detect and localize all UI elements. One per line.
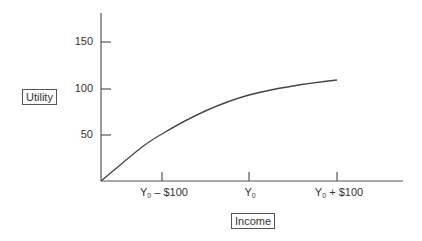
x-tick-label-y0: Y0 [244,186,255,199]
x-tick-label-y0-plus-100: Y0 + $100 [315,186,363,199]
utility-curve [101,80,337,181]
y-tick-label-50: 50 [63,128,93,140]
x-tick-label-y0-minus-100: Y0 – $100 [140,186,188,199]
y-tick-label-100: 100 [63,82,93,94]
y-tick-label-150: 150 [63,35,93,47]
x-axis-label: Income [231,213,275,229]
y-axis-label: Utility [22,89,57,105]
